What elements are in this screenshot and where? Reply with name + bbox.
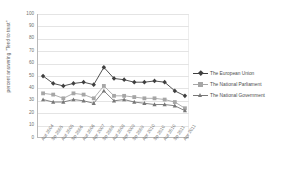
y-axis-tick-label: 10 <box>29 123 34 128</box>
plot-area <box>37 14 189 138</box>
data-point-marker <box>82 93 86 97</box>
data-point-marker <box>102 89 106 93</box>
data-point-marker <box>152 79 156 84</box>
y-axis-tick-label: 50 <box>29 74 34 79</box>
legend-marker-icon <box>193 80 208 89</box>
data-point-marker <box>163 98 167 102</box>
data-point-marker <box>41 91 45 95</box>
legend-label: The European Union <box>208 71 254 76</box>
y-axis-labels: 0102030405060708090100 <box>12 7 34 145</box>
y-axis-tick-label: 60 <box>29 61 34 66</box>
legend-label: The National Government <box>208 93 265 98</box>
y-axis-tick-label: 40 <box>29 86 34 91</box>
data-point-marker <box>122 94 126 98</box>
data-point-marker <box>102 84 106 88</box>
chart-container: percent answering "Tend to trust" 010203… <box>0 0 297 183</box>
data-point-marker <box>92 96 96 100</box>
legend-item[interactable]: The National Parliament <box>193 79 297 90</box>
data-point-marker <box>71 81 75 86</box>
data-point-marker <box>183 93 187 98</box>
y-axis-tick-label: 30 <box>29 98 34 103</box>
y-axis-tick-label: 90 <box>29 24 34 29</box>
data-point-marker <box>112 94 116 98</box>
data-point-marker <box>72 91 76 95</box>
data-point-marker <box>122 97 126 101</box>
data-point-marker <box>41 97 45 101</box>
data-point-marker <box>143 96 147 100</box>
legend-marker-icon <box>193 91 208 100</box>
x-axis-labels: Aut 2004Sp 2005Aut 2005Sp 2006Aut 2006Ap… <box>37 139 189 183</box>
legend-item[interactable]: The National Government <box>193 90 297 101</box>
data-point-marker <box>71 97 75 101</box>
chart-legend: The European UnionThe National Parliamen… <box>193 68 297 101</box>
y-axis-tick-label: 0 <box>31 136 34 141</box>
data-point-marker <box>61 84 65 89</box>
data-point-marker <box>92 82 96 87</box>
legend-item[interactable]: The European Union <box>193 68 297 79</box>
y-axis-title: percent answering "Tend to trust" <box>6 0 11 117</box>
data-point-marker <box>153 96 157 100</box>
y-axis-tick-label: 20 <box>29 111 34 116</box>
data-point-marker <box>173 100 177 104</box>
legend-marker-icon <box>193 69 208 78</box>
y-axis-tick-label: 70 <box>29 49 34 54</box>
y-axis-tick-label: 100 <box>26 12 34 17</box>
legend-label: The National Parliament <box>208 82 261 87</box>
y-axis-tick-label: 80 <box>29 36 34 41</box>
data-point-marker <box>61 96 65 100</box>
data-point-marker <box>142 80 146 85</box>
data-point-marker <box>132 80 136 85</box>
data-point-marker <box>81 80 85 85</box>
data-point-marker <box>51 93 55 97</box>
data-point-marker <box>122 77 126 82</box>
series-layer <box>38 14 190 138</box>
series-the-european-union <box>41 65 187 98</box>
data-point-marker <box>132 95 136 99</box>
